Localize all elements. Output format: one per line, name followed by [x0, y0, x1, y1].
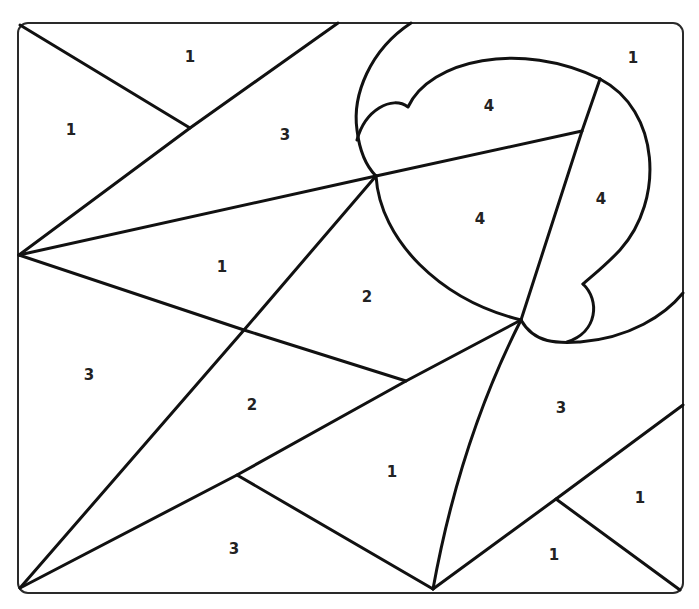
puzzle-frame: [18, 23, 683, 593]
region-number-r05[interactable]: 1: [628, 51, 638, 66]
region-number-r15[interactable]: 3: [229, 542, 239, 557]
curve-circle-left: [376, 176, 521, 320]
curve-bottom-sweep: [521, 293, 683, 343]
line-circle-chord: [521, 79, 600, 320]
line-bottomright-diagonal: [556, 499, 680, 590]
region-number-r10[interactable]: 3: [84, 368, 94, 383]
region-number-r02[interactable]: 1: [66, 123, 76, 138]
line-hub-to-circle-junction: [376, 131, 582, 176]
region-number-r08[interactable]: 1: [217, 260, 227, 275]
region-number-r07[interactable]: 4: [475, 212, 485, 227]
curve-circle-right: [583, 79, 650, 284]
region-number-r13[interactable]: 1: [387, 465, 397, 480]
region-number-r12[interactable]: 3: [556, 401, 566, 416]
curve-upper-lobe: [357, 58, 600, 140]
line-topleft-diagonal: [20, 25, 190, 128]
region-number-r03[interactable]: 3: [280, 128, 290, 143]
region-number-r14[interactable]: 1: [635, 491, 645, 506]
line-lowerleft-v: [237, 475, 433, 589]
puzzle-canvas: [0, 0, 699, 609]
region-number-r04[interactable]: 4: [484, 99, 494, 114]
curve-big-outer-arc: [356, 23, 411, 176]
region-number-r01[interactable]: 1: [185, 50, 195, 65]
region-number-r06[interactable]: 4: [596, 192, 606, 207]
region-number-r09[interactable]: 2: [362, 290, 372, 305]
curve-lower-lobe: [567, 284, 594, 342]
region-number-r16[interactable]: 1: [549, 548, 559, 563]
line-left-lower-diagonal: [19, 255, 406, 381]
region-number-r11[interactable]: 2: [247, 398, 257, 413]
line-bottomleft-to-lowerhub: [20, 320, 521, 588]
